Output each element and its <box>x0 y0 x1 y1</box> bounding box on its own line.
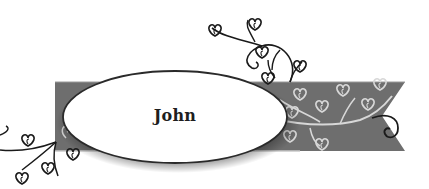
name-tag-graphic: John <box>0 0 429 189</box>
name-text: John <box>75 70 275 160</box>
